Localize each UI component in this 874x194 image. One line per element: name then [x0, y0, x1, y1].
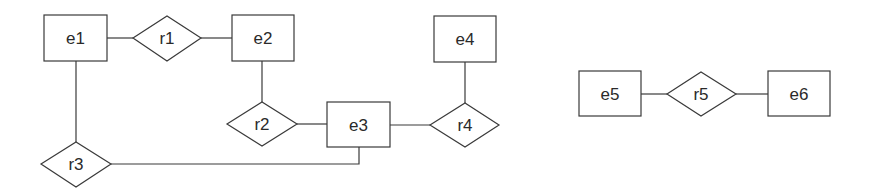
relationship-r1[interactable]: r1	[133, 16, 201, 61]
entity-e4[interactable]: e4	[434, 16, 496, 62]
entity-label: e2	[254, 29, 273, 48]
entity-e5[interactable]: e5	[579, 71, 641, 116]
relationship-label: r3	[68, 155, 83, 174]
edge-r3-e3	[111, 147, 359, 164]
relationship-r2[interactable]: r2	[227, 102, 297, 146]
entity-label: e4	[456, 30, 475, 49]
entity-label: e3	[349, 116, 368, 135]
relationship-label: r1	[159, 29, 174, 48]
entity-label: e5	[601, 85, 620, 104]
entity-label: e6	[790, 85, 809, 104]
relationship-r3[interactable]: r3	[41, 142, 111, 187]
edges	[76, 38, 768, 164]
relationship-r5[interactable]: r5	[667, 72, 736, 116]
relationship-label: r2	[254, 115, 269, 134]
relationship-r4[interactable]: r4	[430, 103, 499, 147]
entity-e3[interactable]: e3	[327, 102, 390, 147]
relationship-label: r4	[457, 116, 472, 135]
relationship-label: r5	[693, 85, 708, 104]
er-diagram-canvas: e1 e2 e3 e4 e5 e6 r1 r2	[0, 0, 874, 194]
entity-e2[interactable]: e2	[232, 15, 294, 61]
entity-e6[interactable]: e6	[768, 71, 830, 116]
entity-e1[interactable]: e1	[44, 15, 107, 61]
entity-label: e1	[66, 29, 85, 48]
